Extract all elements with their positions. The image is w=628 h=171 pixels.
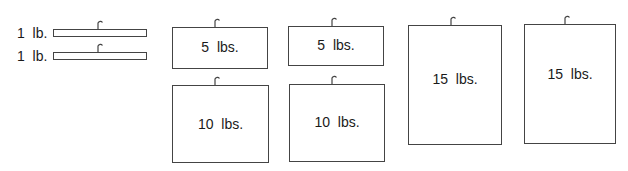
weight-label: 10 lbs. — [173, 116, 268, 132]
bar-weight — [53, 52, 147, 60]
box-weight: 10 lbs. — [172, 85, 269, 163]
weight-label: 1 lb. — [17, 48, 47, 64]
hook-icon — [562, 14, 570, 24]
bar-weight — [53, 29, 147, 37]
box-weight: 15 lbs. — [408, 25, 502, 145]
box-weight: 5 lbs. — [288, 26, 384, 66]
hook-icon — [95, 19, 103, 29]
weight-label: 10 lbs. — [290, 114, 384, 130]
weight-label: 5 lbs. — [173, 39, 267, 55]
hook-icon — [329, 74, 337, 84]
weight-label: 5 lbs. — [289, 37, 383, 53]
box-weight: 5 lbs. — [172, 27, 268, 69]
weight-label: 15 lbs. — [525, 66, 615, 82]
hook-icon — [448, 15, 456, 25]
box-weight: 10 lbs. — [289, 84, 385, 162]
weight-label: 15 lbs. — [409, 71, 501, 87]
hook-icon — [329, 16, 337, 26]
hook-icon — [95, 42, 103, 52]
hook-icon — [212, 75, 220, 85]
hook-icon — [212, 17, 220, 27]
box-weight: 15 lbs. — [524, 24, 616, 144]
weight-label: 1 lb. — [17, 25, 47, 41]
